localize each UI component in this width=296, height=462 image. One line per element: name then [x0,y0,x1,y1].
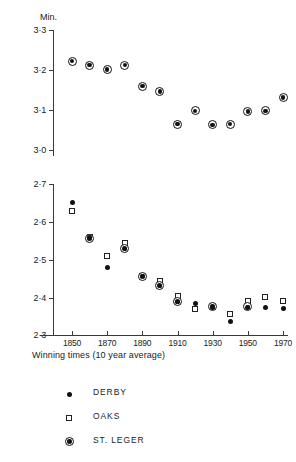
st-leger-point [261,106,270,115]
legend-item-derby: DERBY [0,383,296,407]
derby-point [140,274,145,279]
st-leger-point [138,82,147,91]
oaks-point [104,253,110,259]
top-panel-data-points [0,0,296,170]
bottom-panel-data-points [0,170,296,355]
legend-item-oaks: OAKS [0,407,296,431]
st-leger-point [103,65,112,74]
oaks-point [192,306,198,312]
derby-point [281,306,286,311]
legend-label-oaks: OAKS [93,411,120,421]
bottom-panel-caption: Winning times (10 year average) [32,350,165,360]
legend-item-st-leger: ST. LEGER [0,431,296,455]
derby-point [175,299,180,304]
derby-point [122,246,127,251]
legend-label-st-leger: ST. LEGER [93,435,145,445]
st-leger-marker-icon [65,437,74,446]
oaks-point [69,208,75,214]
winning-times-figure: Min. 3·3 3·2 3·1 3·0 2·7 2·6 2·5 2·4 2·3 [0,0,296,462]
derby-point [193,301,198,306]
derby-point [228,319,233,324]
oaks-point [227,311,233,317]
st-leger-point [191,106,200,115]
st-leger-point [226,120,235,129]
st-leger-point [155,87,164,96]
legend-label-derby: DERBY [93,387,127,397]
derby-point [70,200,75,205]
st-leger-point [208,120,217,129]
oaks-point [262,294,268,300]
st-leger-point [120,61,129,70]
st-leger-point [68,57,77,66]
top-panel-st-leger: Min. 3·3 3·2 3·1 3·0 [0,0,296,170]
st-leger-point [243,107,252,116]
st-leger-point [173,120,182,129]
oaks-marker-icon [66,415,72,421]
oaks-point [280,298,286,304]
derby-point [105,265,110,270]
chart-legend: DERBY OAKS ST. LEGER [0,383,296,455]
derby-point [263,305,268,310]
bottom-panel-all-races: 2·7 2·6 2·5 2·4 2·3 18501870189019101930… [0,170,296,355]
st-leger-point [85,61,94,70]
derby-point [210,305,215,310]
derby-marker-icon [67,392,72,397]
st-leger-point [279,93,288,102]
